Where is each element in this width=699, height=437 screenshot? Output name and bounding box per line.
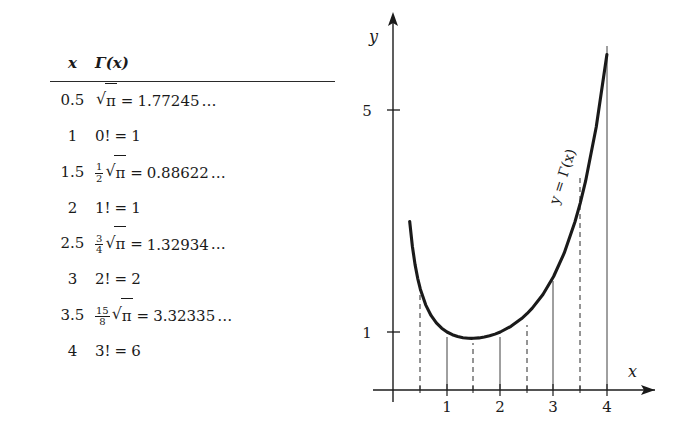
table-row: 43!=6	[50, 334, 335, 369]
square-root: π	[96, 82, 117, 119]
cell-gamma-value: 1!=1	[95, 191, 335, 226]
cell-x: 2.5	[50, 226, 95, 263]
numeric-value: 1.77245	[137, 92, 199, 110]
cell-gamma-value: 0!=1	[95, 119, 335, 154]
table-row: 10!=1	[50, 119, 335, 154]
table: x Γ(x) 0.5π=1.77245…10!=11.512π=0.88622……	[50, 46, 335, 369]
numeric-value: 6	[131, 342, 141, 360]
square-root: π	[105, 226, 126, 263]
numeric-value: 1	[131, 127, 141, 145]
table-head: x Γ(x)	[50, 46, 335, 82]
numeric-value: 3.32335	[153, 307, 215, 325]
equals-sign: =	[115, 199, 128, 217]
plot-svg: y x 5 1 1 2 3 4 y = Γ(x)	[355, 0, 699, 437]
column-header-x: x	[50, 46, 95, 82]
equals-sign: =	[121, 92, 134, 110]
x-tick-label-3: 3	[548, 398, 558, 416]
y-tick-label-5: 5	[362, 102, 372, 120]
numeric-value: 1.32934	[147, 235, 209, 253]
cell-gamma-value: 158π=3.32335…	[95, 297, 335, 334]
coefficient-fraction: 12	[95, 162, 103, 184]
cell-gamma-value: 3!=6	[95, 334, 335, 369]
gamma-plot: y x 5 1 1 2 3 4 y = Γ(x)	[355, 0, 699, 437]
table-row: 1.512π=0.88622…	[50, 154, 335, 191]
cell-x: 3.5	[50, 297, 95, 334]
ellipsis: …	[217, 307, 234, 325]
equals-sign: =	[115, 270, 128, 288]
table-row: 21!=1	[50, 191, 335, 226]
factorial: 3!	[95, 342, 111, 360]
cell-gamma-value: 12π=0.88622…	[95, 154, 335, 191]
factorial: 2!	[95, 270, 111, 288]
cell-x: 0.5	[50, 82, 95, 119]
gamma-value-table: x Γ(x) 0.5π=1.77245…10!=11.512π=0.88622……	[50, 46, 335, 369]
equals-sign: =	[130, 235, 143, 253]
gamma-function-figure: x Γ(x) 0.5π=1.77245…10!=11.512π=0.88622……	[0, 0, 699, 437]
table-header-row: x Γ(x)	[50, 46, 335, 82]
ellipsis: …	[211, 235, 228, 253]
table-body: 0.5π=1.77245…10!=11.512π=0.88622…21!=12.…	[50, 82, 335, 370]
gamma-curve	[410, 55, 607, 339]
factorial: 0!	[95, 127, 111, 145]
square-root: π	[105, 154, 126, 191]
equals-sign: =	[137, 307, 150, 325]
table-row: 32!=2	[50, 262, 335, 297]
equals-sign: =	[115, 127, 128, 145]
numeric-value: 1	[131, 199, 141, 217]
curve-label: y = Γ(x)	[546, 147, 579, 207]
cell-gamma-value: π=1.77245…	[95, 82, 335, 119]
equals-sign: =	[115, 342, 128, 360]
table-row: 3.5158π=3.32335…	[50, 297, 335, 334]
equals-sign: =	[130, 164, 143, 182]
numeric-value: 0.88622	[147, 164, 209, 182]
cell-x: 1.5	[50, 154, 95, 191]
ellipsis: …	[211, 164, 228, 182]
coefficient-fraction: 34	[95, 234, 103, 256]
y-tick-label-1: 1	[362, 324, 372, 342]
cell-x: 4	[50, 334, 95, 369]
column-header-gamma: Γ(x)	[95, 46, 335, 82]
cell-x: 3	[50, 262, 95, 297]
coefficient-fraction: 158	[95, 306, 110, 328]
square-root: π	[112, 297, 133, 334]
cell-x: 1	[50, 119, 95, 154]
x-tick-label-1: 1	[442, 398, 452, 416]
x-tick-label-2: 2	[495, 398, 505, 416]
x-axis-label: x	[628, 362, 637, 381]
numeric-value: 2	[131, 270, 141, 288]
cell-x: 2	[50, 191, 95, 226]
cell-gamma-value: 2!=2	[95, 262, 335, 297]
cell-gamma-value: 34π=1.32934…	[95, 226, 335, 263]
table-row: 2.534π=1.32934…	[50, 226, 335, 263]
ellipsis: …	[201, 92, 218, 110]
factorial: 1!	[95, 199, 111, 217]
table-row: 0.5π=1.77245…	[50, 82, 335, 119]
y-axis-label: y	[368, 27, 379, 46]
x-tick-label-4: 4	[602, 398, 612, 416]
